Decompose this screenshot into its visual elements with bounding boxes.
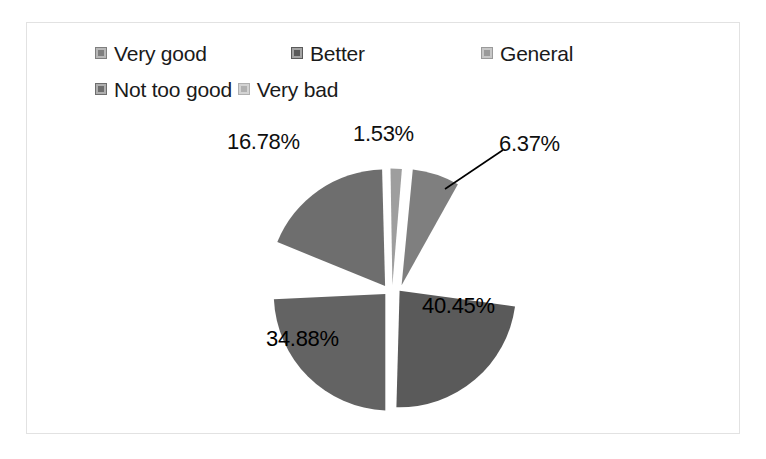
pie-slice-not-too-good[interactable]	[277, 170, 385, 287]
pie-label-better: 40.45%	[422, 295, 495, 317]
leader-line-very-good	[445, 150, 503, 189]
pie-label-general: 34.88%	[266, 328, 339, 350]
pie-chart-svg	[27, 23, 741, 435]
pie-label-very-bad: 1.53%	[353, 123, 414, 145]
pie-chart-area: 16.78% 1.53% 6.37% 40.45% 34.88%	[27, 23, 741, 435]
pie-slice-general[interactable]	[274, 294, 385, 411]
pie-label-very-good: 6.37%	[499, 133, 560, 155]
chart-frame: Very good Better General Not too good Ve…	[26, 22, 740, 434]
pie-slice-very-bad[interactable]	[391, 169, 402, 286]
pie-label-not-too-good: 16.78%	[227, 131, 300, 153]
